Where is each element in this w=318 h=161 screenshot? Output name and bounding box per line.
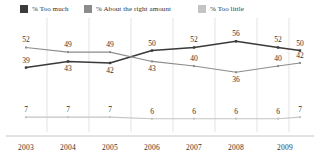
data-point-too-much-2004 — [67, 60, 69, 62]
data-point-too-much-2006 — [151, 49, 153, 51]
x-axis-labels: 2003200420052006200720082009 — [0, 140, 318, 161]
value-label-about-the-right-amount-2009: 40 — [274, 54, 282, 63]
data-point-too-little-2003 — [25, 116, 27, 118]
value-label-too-little-2005: 7 — [108, 105, 112, 114]
value-label-too-much-2009: 50 — [296, 39, 304, 48]
data-point-too-much-2003 — [25, 66, 27, 68]
data-point-too-little-2008 — [235, 118, 237, 120]
data-point-too-little-2009 — [299, 116, 301, 118]
x-tick-2007: 2007 — [186, 143, 202, 153]
value-label-about-the-right-amount-2009: 42 — [296, 51, 304, 60]
data-point-too-little-2009 — [277, 118, 279, 120]
data-point-too-much-2009 — [277, 46, 279, 48]
x-tick-2008: 2008 — [228, 143, 244, 153]
data-point-too-little-2007 — [193, 118, 195, 120]
value-label-about-the-right-amount-2006: 43 — [148, 64, 156, 73]
data-point-too-little-2006 — [151, 118, 153, 120]
plot-svg: 3943425052565250524949434036404277766667 — [0, 18, 318, 140]
value-label-too-little-2009: 6 — [276, 107, 280, 116]
square-swatch-icon — [20, 5, 28, 13]
data-point-about-the-right-amount-2003 — [25, 46, 27, 48]
value-label-about-the-right-amount-2005: 49 — [106, 40, 114, 49]
value-label-too-much-2008: 56 — [232, 29, 240, 38]
legend-label-too-much: % Too much — [32, 5, 69, 13]
data-point-too-little-2005 — [109, 116, 111, 118]
data-point-too-little-2004 — [67, 116, 69, 118]
value-label-too-little-2006: 6 — [150, 107, 154, 116]
x-tick-2004: 2004 — [60, 143, 76, 153]
series-value-labels: 3943425052565250524949434036404277766667 — [22, 29, 304, 115]
legend-item-too-much[interactable]: % Too much — [20, 3, 69, 15]
value-label-too-little-2003: 7 — [24, 105, 28, 114]
legend-item-about-right[interactable]: % About the right amount — [84, 3, 171, 15]
plot-area: 3943425052565250524949434036404277766667 — [0, 18, 318, 140]
data-point-about-the-right-amount-2006 — [151, 60, 153, 62]
value-label-too-much-2004: 43 — [64, 64, 72, 73]
value-label-too-little-2004: 7 — [66, 105, 70, 114]
x-tick-2006: 2006 — [144, 143, 160, 153]
value-label-too-little-2008: 6 — [234, 107, 238, 116]
line-chart: % Too much % About the right amount % To… — [0, 0, 318, 161]
value-label-about-the-right-amount-2007: 40 — [190, 54, 198, 63]
data-point-too-much-2007 — [193, 46, 195, 48]
x-tick-2009: 2009 — [277, 143, 293, 153]
data-point-about-the-right-amount-2005 — [109, 51, 111, 53]
value-label-about-the-right-amount-2003: 52 — [22, 35, 30, 44]
value-label-too-much-2009: 52 — [274, 35, 282, 44]
value-label-too-much-2005: 42 — [106, 66, 114, 75]
data-point-about-the-right-amount-2009 — [277, 65, 279, 67]
gridlines — [47, 18, 289, 132]
value-label-about-the-right-amount-2008: 36 — [232, 75, 240, 84]
value-label-too-little-2009: 7 — [298, 105, 302, 114]
square-swatch-icon — [198, 5, 206, 13]
legend-label-too-little: % Too little — [210, 5, 244, 13]
legend-label-about-right: % About the right amount — [96, 5, 171, 13]
value-label-too-much-2003: 39 — [22, 56, 30, 65]
data-point-too-much-2005 — [109, 62, 111, 64]
x-tick-2003: 2003 — [18, 143, 34, 153]
data-point-about-the-right-amount-2009 — [299, 62, 301, 64]
value-label-too-little-2007: 6 — [192, 107, 196, 116]
data-point-about-the-right-amount-2007 — [193, 65, 195, 67]
data-point-about-the-right-amount-2008 — [235, 71, 237, 73]
x-tick-2005: 2005 — [102, 143, 118, 153]
legend-item-too-little[interactable]: % Too little — [198, 3, 244, 15]
chart-legend: % Too much % About the right amount % To… — [0, 0, 318, 20]
value-label-too-much-2006: 50 — [148, 39, 156, 48]
data-point-about-the-right-amount-2004 — [67, 51, 69, 53]
data-point-too-much-2008 — [235, 40, 237, 42]
value-label-too-much-2007: 52 — [190, 35, 198, 44]
value-label-about-the-right-amount-2004: 49 — [64, 40, 72, 49]
square-swatch-icon — [84, 5, 92, 13]
